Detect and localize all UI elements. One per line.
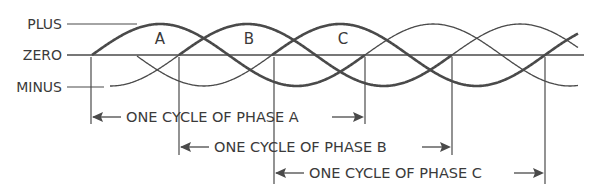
- plus-label: PLUS: [27, 16, 62, 32]
- phase-b-label: B: [244, 30, 254, 48]
- cycle-c-label: ONE CYCLE OF PHASE C: [309, 165, 482, 181]
- cycle-a-label: ONE CYCLE OF PHASE A: [126, 109, 299, 125]
- phase-b-waveform: [110, 52, 183, 86]
- minus-label: MINUS: [16, 79, 62, 95]
- three-phase-waveform-diagram: PLUS ZERO MINUS A B C ONE CYCLE OF PHASE…: [0, 0, 590, 189]
- cycle-b-dimension: ONE CYCLE OF PHASE B: [180, 139, 451, 155]
- phase-c-label: C: [338, 30, 348, 48]
- cycle-a-dimension: ONE CYCLE OF PHASE A: [92, 109, 364, 125]
- phase-b-waveform-continuation: [452, 24, 578, 55]
- cycle-b-label: ONE CYCLE OF PHASE B: [214, 139, 387, 155]
- cycle-c-dimension: ONE CYCLE OF PHASE C: [275, 165, 544, 181]
- phase-a-label: A: [155, 30, 166, 48]
- zero-label: ZERO: [23, 47, 62, 63]
